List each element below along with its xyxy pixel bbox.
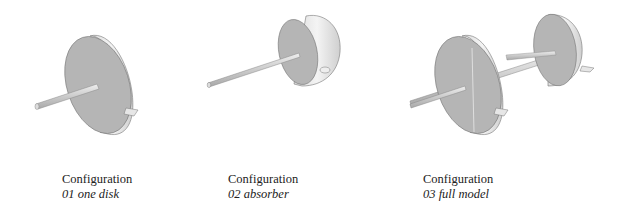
caption-name: 02 absorber: [228, 187, 298, 202]
disk-icon: [53, 28, 143, 140]
panel-03-full-model: [410, 11, 594, 140]
panel-02-absorber: [207, 15, 340, 88]
caption-label: Configuration: [423, 172, 493, 187]
caption-01: Configuration 01 one disk: [62, 172, 132, 202]
configuration-illustrations: [0, 0, 620, 140]
disk-icon: [273, 15, 341, 88]
caption-label: Configuration: [228, 172, 298, 187]
caption-name: 01 one disk: [62, 187, 132, 202]
caption-label: Configuration: [62, 172, 132, 187]
second-disk-icon: [506, 11, 594, 88]
disk-icon: [410, 28, 513, 140]
caption-name: 03 full model: [423, 187, 493, 202]
caption-03: Configuration 03 full model: [423, 172, 493, 202]
panel-01-one-disk: [35, 28, 143, 140]
caption-02: Configuration 02 absorber: [228, 172, 298, 202]
